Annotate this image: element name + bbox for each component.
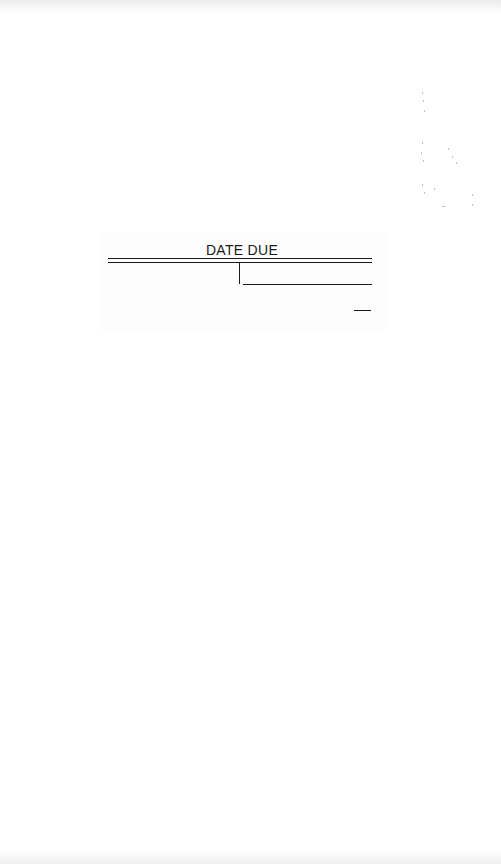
- scan-specks: [418, 88, 478, 208]
- row-rule-1: [243, 284, 372, 285]
- column-divider: [239, 262, 240, 284]
- scan-edge-bottom: [0, 850, 501, 864]
- date-due-title: DATE DUE: [98, 242, 386, 258]
- header-rule-bottom: [108, 262, 372, 263]
- row-rule-2-fragment: [354, 310, 371, 311]
- header-rule-top: [108, 258, 372, 259]
- date-due-slip: DATE DUE: [98, 232, 386, 330]
- scan-edge-top: [0, 0, 501, 14]
